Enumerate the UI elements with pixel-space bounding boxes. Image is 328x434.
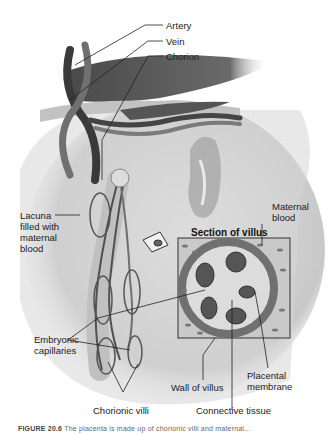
- label-lacuna: Lacuna filled with maternal blood: [20, 210, 59, 254]
- label-chorion: Chorion: [166, 51, 199, 62]
- label-artery: Artery: [166, 20, 191, 31]
- villus-section-inset: [178, 238, 290, 338]
- label-chorionic-villi: Chorionic villi: [93, 405, 149, 416]
- caption-figure-number: FIGURE 20.6: [18, 425, 62, 432]
- label-maternal-blood: Maternal blood: [272, 201, 309, 223]
- caption-text: The placenta is made up of chorionic vil…: [64, 425, 250, 432]
- label-wall-of-villus: Wall of villus: [171, 382, 223, 393]
- label-placental-membrane: Placental membrane: [247, 370, 292, 392]
- label-connective-tissue: Connective tissue: [196, 405, 271, 416]
- figure-caption: FIGURE 20.6 The placenta is made up of c…: [18, 425, 251, 432]
- label-vein: Vein: [166, 36, 185, 47]
- section-of-villus-title: Section of villus: [191, 227, 268, 238]
- label-embryonic-capillaries: Embryonic capillaries: [34, 334, 79, 356]
